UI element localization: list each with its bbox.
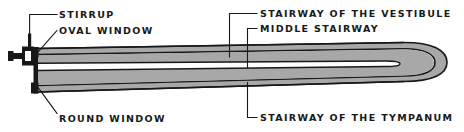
label-oval-window: OVAL WINDOW bbox=[59, 26, 154, 36]
cochlear-duct-body bbox=[37, 43, 447, 93]
round-window-membrane bbox=[31, 83, 39, 94]
label-round-window: ROUND WINDOW bbox=[59, 114, 166, 124]
cochlea-diagram-figure: STIRRUP OVAL WINDOW STAIRWAY OF THE VEST… bbox=[0, 0, 464, 132]
label-stirrup: STIRRUP bbox=[59, 10, 115, 20]
label-stairway-of-the-tympanum: STAIRWAY OF THE TYMPANUM bbox=[260, 113, 453, 123]
leader-stairway-tympanum bbox=[248, 83, 258, 118]
stirrup-bone bbox=[8, 34, 34, 66]
label-stairway-of-the-vestibule: STAIRWAY OF THE VESTIBULE bbox=[260, 9, 452, 19]
leader-stirrup bbox=[30, 15, 57, 35]
label-middle-stairway: MIDDLE STAIRWAY bbox=[260, 24, 379, 34]
